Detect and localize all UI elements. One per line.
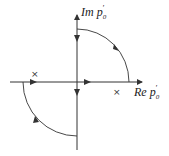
real-axis-label: Re p0′	[133, 84, 160, 101]
pole-marker-2: ×	[113, 87, 121, 97]
pole-marker-1: ×	[31, 69, 39, 79]
arrow-imag-axis-2-icon	[74, 89, 80, 96]
imaginary-axis-label: Im p0′	[80, 4, 107, 21]
lower-arc	[23, 82, 77, 136]
upper-arc	[77, 29, 129, 82]
arrow-real-axis-2-icon	[84, 79, 91, 85]
arrow-imag-axis-1-icon	[74, 35, 80, 42]
arrow-upper-arc-icon	[113, 44, 119, 51]
contour-diagram: × × Im p0′ Re p0′	[0, 0, 169, 156]
arrow-real-axis-1-icon	[30, 79, 37, 85]
